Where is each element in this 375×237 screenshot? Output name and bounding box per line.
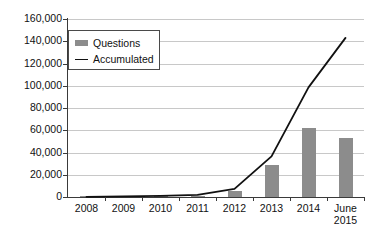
line-swatch-icon bbox=[75, 59, 88, 60]
chart-container: 160,000140,000120,000100,00080,00060,000… bbox=[0, 0, 375, 237]
x-axis-tick bbox=[364, 197, 365, 201]
legend-item-questions: Questions bbox=[75, 36, 159, 50]
y-axis-tick-label: 140,000 bbox=[2, 35, 62, 45]
y-axis-tick-label: 20,000 bbox=[2, 169, 62, 179]
y-axis-tick-label: 160,000 bbox=[2, 13, 62, 23]
x-axis-tick bbox=[327, 197, 328, 201]
y-axis-tick-label: 40,000 bbox=[2, 147, 62, 157]
x-axis-tick-label-line: June bbox=[319, 202, 373, 214]
y-axis-tick-label: 120,000 bbox=[2, 58, 62, 68]
x-axis-tick bbox=[179, 197, 180, 201]
x-axis-tick-label-line: 2015 bbox=[319, 214, 373, 226]
x-axis-tick bbox=[216, 197, 217, 201]
x-axis-tick-label: June2015 bbox=[319, 202, 373, 226]
y-axis-tick-label: 0 bbox=[2, 191, 62, 201]
bar-swatch-icon bbox=[75, 40, 88, 46]
x-axis-tick bbox=[253, 197, 254, 201]
chart-legend: Questions Accumulated bbox=[68, 30, 160, 70]
y-axis-tick-label: 100,000 bbox=[2, 80, 62, 90]
legend-label-questions: Questions bbox=[93, 38, 140, 49]
y-axis-tick-label: 60,000 bbox=[2, 124, 62, 134]
legend-item-accumulated: Accumulated bbox=[75, 52, 159, 66]
legend-label-accumulated: Accumulated bbox=[93, 54, 154, 65]
y-axis-tick-label: 80,000 bbox=[2, 102, 62, 112]
x-axis-tick bbox=[290, 197, 291, 201]
x-axis-tick bbox=[142, 197, 143, 201]
x-axis-tick bbox=[105, 197, 106, 201]
